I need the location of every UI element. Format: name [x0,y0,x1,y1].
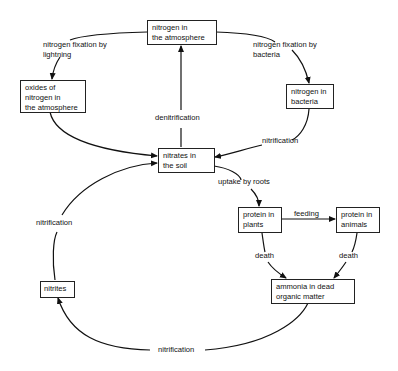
edge-label-uptake-by-roots: uptake by roots [218,177,270,187]
node-text-line: oxides of [25,83,81,93]
node-text-line: bacteria [291,97,329,107]
node-text-line: animals [341,220,375,230]
node-text-line: protein in [243,210,277,220]
edge-label-line: nitrogen fixation by [43,40,107,50]
node-text-line: nitrates in [163,151,210,161]
node-text-line: nitrogen in [152,23,212,33]
edge-label-denitrification: denitrification [155,113,200,123]
edge-label-line: nitrogen fixation by [253,40,317,50]
node-text-line: plants [243,220,277,230]
edge-label-nitrification-bacteria: nitrification [262,136,298,146]
edge-label-fixation-lightning: nitrogen fixation by lightning [43,40,107,60]
edge-label-feeding: feeding [294,209,319,219]
edge-label-nitrification-nitrites: nitrification [34,218,74,228]
node-oxides-of-nitrogen: oxides of nitrogen in the atmosphere [20,80,86,113]
edge-label-fixation-bacteria: nitrogen fixation by bacteria [253,40,317,60]
node-text-line: nitrogen in [291,87,329,97]
node-nitrites: nitrites [40,281,75,298]
node-ammonia-dead-matter: ammonia in dead organic matter [271,279,355,304]
node-protein-animals: protein in animals [336,207,380,233]
edge-label-line: lightning [43,50,107,60]
node-text-line: nitrogen in [25,93,81,103]
edge-label-line: bacteria [253,50,317,60]
edge-label-death-plants: death [255,251,274,261]
node-text-line: the soil [163,161,210,171]
node-nitrogen-atmosphere: nitrogen in the atmosphere [147,20,217,45]
node-text-line: the atmosphere [152,33,212,43]
node-nitrogen-bacteria: nitrogen in bacteria [286,84,334,109]
edge-label-death-animals: death [339,251,358,261]
node-nitrates-soil: nitrates in the soil [158,148,215,173]
node-text-line: organic matter [276,292,350,302]
node-protein-plants: protein in plants [238,207,282,233]
node-text-line: ammonia in dead [276,282,350,292]
node-text-line: the atmosphere [25,103,81,113]
node-text-line: nitrites [44,284,71,294]
node-text-line: protein in [341,210,375,220]
edge-label-nitrification-bottom: nitrification [156,345,196,355]
